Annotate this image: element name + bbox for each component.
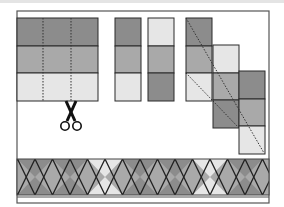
strip-square-dark: [148, 73, 174, 101]
block-row-medium: [17, 46, 98, 73]
quilt-diagram: [0, 0, 284, 207]
stair-square-light: [239, 126, 265, 154]
stair-square-medium: [239, 99, 265, 126]
block-row-dark: [17, 18, 98, 46]
strip-square-light: [148, 18, 174, 46]
diamond-border-strip: [0, 159, 280, 195]
strip-square-dark: [115, 18, 141, 46]
stair-square-dark: [186, 18, 212, 46]
stair-square-light: [213, 45, 239, 73]
sewn-strip-block: [17, 18, 98, 101]
stair-square-dark: [239, 71, 265, 99]
strip-square-medium: [148, 46, 174, 73]
strip-square-light: [115, 73, 141, 101]
strip-square-medium: [115, 46, 141, 73]
stair-square-medium: [186, 46, 212, 73]
block-row-light: [17, 73, 98, 101]
